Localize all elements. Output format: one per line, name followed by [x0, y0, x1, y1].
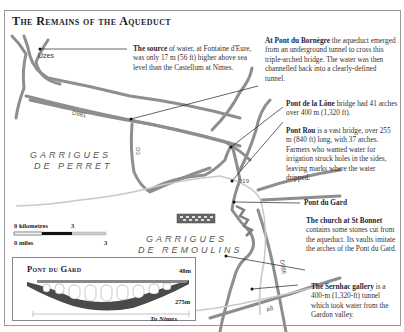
leader-bornegre — [131, 86, 258, 119]
annotation-bonnet-body: contains some stones cut from the aquedu… — [306, 225, 397, 253]
annotation-source-heading: The source — [133, 44, 167, 53]
annotation-bonnet-heading: The church at St Bonnet — [306, 216, 382, 225]
leader-sernhac — [252, 285, 298, 289]
region-remoulins-line2: DE REMOULINS — [138, 245, 243, 256]
to-nimes-label: To Nimes — [150, 315, 177, 323]
inset-length-label: 275m — [175, 298, 190, 305]
annotation-lone-heading: Pont de la Lône — [286, 99, 335, 108]
road-label-d19: D19 — [238, 178, 249, 184]
region-perret: GARRIGUES DE PERRET — [30, 150, 113, 172]
road-d19 — [240, 100, 270, 170]
page-title: The Remains of the Aqueduct — [12, 14, 171, 29]
inset-pont-du-gard: Pont du Gard 48m 275m — [12, 257, 196, 321]
scale-miles-max: 3 — [104, 239, 107, 246]
region-perret-line2: DE PERRET — [30, 161, 113, 172]
leader-gard — [234, 202, 300, 203]
place-uzes: Uzes — [38, 52, 54, 59]
road-label-d3: D3 — [135, 147, 141, 155]
annotation-bonnet: The church at St Bonnet contains some st… — [306, 216, 400, 254]
bridge-illustration — [13, 258, 197, 322]
region-perret-line1: GARRIGUES — [30, 150, 113, 161]
annotation-gard-heading: Pont du Gard — [304, 198, 347, 207]
leader-lone — [231, 107, 283, 147]
region-remoulins: GARRIGUES DE REMOULINS — [138, 234, 243, 256]
annotation-bornegre: At Pont du Bornègre the aqueduct emerged… — [265, 36, 397, 83]
annotation-sernhac: The Sernhac gallery is a 400-m (1,320-ft… — [311, 282, 399, 320]
annotation-source: The source of water, at Fontaine d'Eure,… — [133, 44, 258, 72]
scale-km-max: 3 — [71, 222, 74, 229]
annotation-bornegre-heading: At Pont du Bornègre — [265, 36, 330, 45]
scale-miles-label: 0 miles — [14, 239, 33, 246]
scale-km-label: 0 kilometres — [14, 222, 48, 229]
region-remoulins-line1: GARRIGUES — [138, 234, 243, 245]
annotation-rou: Pont Rou is a vast bridge, over 255 m (8… — [286, 126, 398, 182]
inset-height-label: 48m — [179, 267, 191, 274]
annotation-lone: Pont de la Lône bridge had 41 arches ove… — [286, 99, 398, 118]
scale-bar — [14, 232, 106, 235]
annotation-sernhac-heading: The Sernhac gallery — [311, 282, 374, 291]
river-right — [212, 68, 252, 130]
annotation-gard: Pont du Gard — [304, 198, 400, 207]
st-bonnet-village — [177, 214, 215, 223]
annotation-rou-heading: Pont Rou — [286, 126, 315, 135]
river-upper-left — [12, 36, 26, 118]
